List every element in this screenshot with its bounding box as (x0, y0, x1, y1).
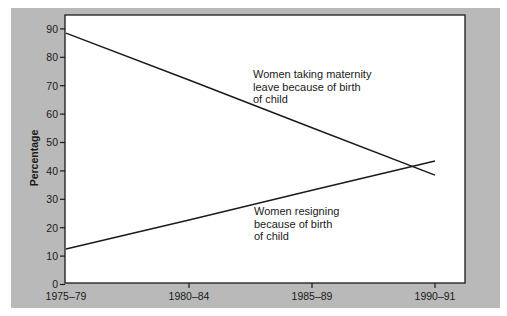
y-axis-label: Percentage (28, 130, 40, 187)
y-tick-label: 30 (46, 193, 58, 205)
y-tick-label: 90 (46, 23, 58, 35)
y-tick-label: 60 (46, 108, 58, 120)
line-chart: 0102030405060708090 1975–791980–841985–8… (0, 0, 507, 316)
x-tick-label: 1985–89 (292, 290, 333, 302)
y-tick-label: 80 (46, 51, 58, 63)
x-tick-label: 1990–91 (415, 290, 456, 302)
y-axis: 0102030405060708090 (46, 23, 65, 291)
y-tick-label: 10 (46, 250, 58, 262)
x-axis: 1975–791980–841985–891990–91 (46, 283, 456, 302)
y-tick-label: 50 (46, 136, 58, 148)
y-tick-label: 20 (46, 222, 58, 234)
x-tick-label: 1980–84 (169, 290, 210, 302)
y-tick-label: 0 (52, 278, 58, 290)
x-tick-label: 1975–79 (46, 290, 87, 302)
y-tick-label: 70 (46, 80, 58, 92)
y-tick-label: 40 (46, 165, 58, 177)
